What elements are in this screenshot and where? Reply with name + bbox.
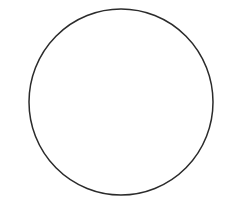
canvas-root — [0, 0, 226, 207]
circle-outline-shape — [29, 9, 213, 195]
figure-canvas — [0, 0, 226, 207]
